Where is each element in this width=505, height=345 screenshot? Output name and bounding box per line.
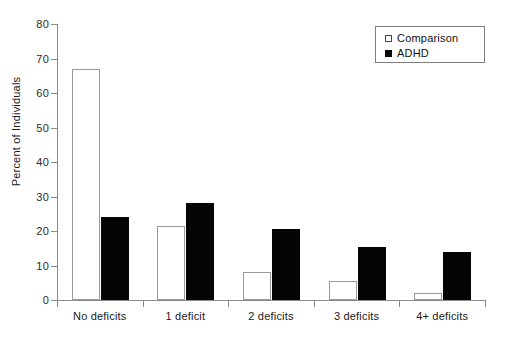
x-tick	[228, 301, 229, 307]
chart-legend: Comparison ADHD	[375, 26, 485, 63]
x-tick	[399, 301, 400, 307]
legend-label-adhd: ADHD	[397, 48, 429, 59]
x-axis-line	[57, 300, 486, 301]
bar-comparison-4-deficits	[414, 293, 442, 300]
x-tick	[314, 301, 315, 307]
y-tick-label: 30	[5, 192, 49, 203]
y-tick-label: 20	[5, 226, 49, 237]
bar-adhd-3-deficits	[358, 247, 386, 300]
y-tick-label: 80	[5, 19, 49, 30]
y-tick-label: 40	[5, 157, 49, 168]
legend-item-adhd: ADHD	[385, 47, 429, 59]
bar-comparison-1-deficit	[157, 226, 185, 300]
y-tick-label: 0	[5, 295, 49, 306]
bar-comparison-2-deficits	[243, 272, 271, 300]
bar-comparison-no-deficits	[72, 69, 100, 300]
bar-adhd-no-deficits	[101, 217, 129, 300]
bar-adhd-4-deficits	[443, 252, 471, 300]
x-tick	[485, 301, 486, 307]
legend-item-comparison: Comparison	[385, 32, 458, 44]
y-tick-label: 60	[5, 88, 49, 99]
bar-comparison-3-deficits	[329, 281, 357, 300]
filled-square-marker-icon	[385, 50, 392, 57]
y-tick-label: 50	[5, 123, 49, 134]
y-tick-label: 70	[5, 54, 49, 65]
x-tick-label: 4+ deficits	[382, 310, 502, 323]
plot-area	[57, 24, 485, 300]
bar-adhd-2-deficits	[272, 229, 300, 300]
y-tick-label: 10	[5, 261, 49, 272]
bar-chart: Percent of Individuals 01020304050607080…	[0, 0, 505, 345]
x-tick	[57, 301, 58, 307]
bar-adhd-1-deficit	[186, 203, 214, 300]
open-square-marker-icon	[385, 35, 392, 42]
x-tick	[143, 301, 144, 307]
legend-label-comparison: Comparison	[397, 33, 458, 44]
